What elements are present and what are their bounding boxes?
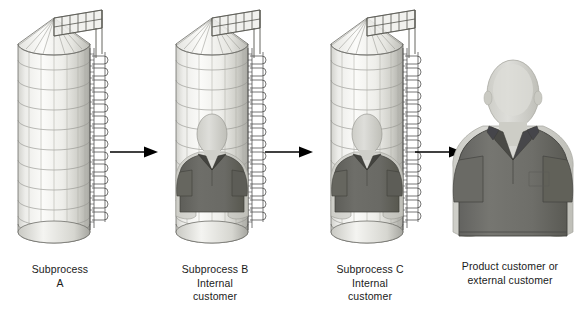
caption-subprocess-b: Subprocess B Internal customer bbox=[155, 263, 275, 304]
silo-subprocess-b[interactable] bbox=[176, 10, 266, 243]
caption-subprocess-a: Subprocess A bbox=[8, 263, 112, 290]
diagram-canvas: Subprocess A Subprocess B Internal custo… bbox=[0, 0, 586, 323]
caption-subprocess-c: Subprocess C Internal customer bbox=[310, 263, 430, 304]
silo-subprocess-c[interactable] bbox=[331, 10, 421, 243]
arrow-b-to-c bbox=[265, 147, 313, 158]
caption-product-customer: Product customer or external customer bbox=[440, 260, 580, 287]
product-customer-figure[interactable] bbox=[453, 60, 573, 237]
arrow-a-to-b bbox=[110, 147, 158, 158]
silo-subprocess-a[interactable] bbox=[18, 10, 108, 243]
